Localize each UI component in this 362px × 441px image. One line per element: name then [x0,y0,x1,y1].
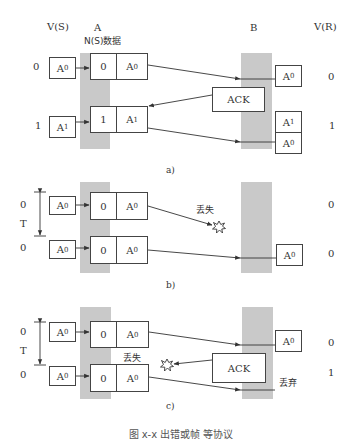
figure-caption: 图 x-x 出错或帧 等协议 [0,426,362,441]
burst-icon [213,221,226,233]
burst-icon [161,359,174,371]
